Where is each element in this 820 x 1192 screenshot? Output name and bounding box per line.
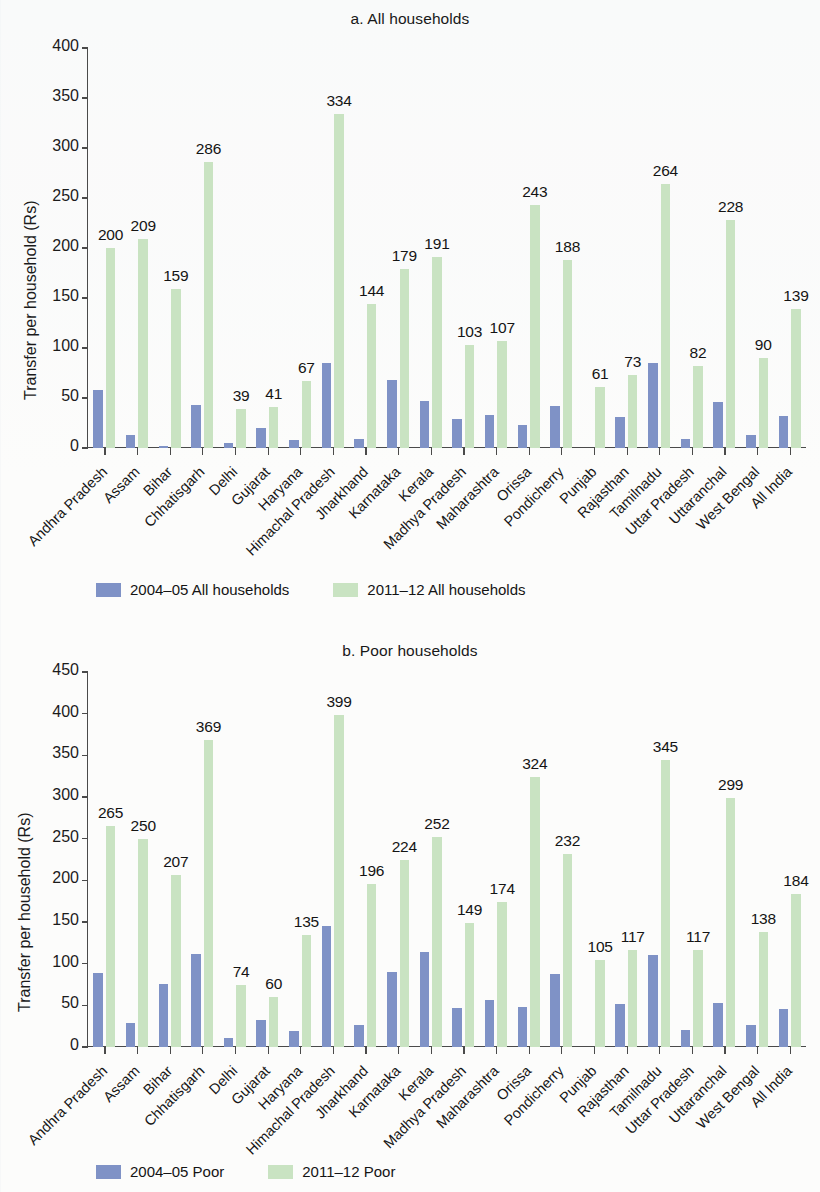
bar-2011-12 [595, 960, 605, 1048]
bar-2004-05 [615, 1004, 625, 1047]
x-tick-mark [724, 1047, 725, 1054]
y-tick-label: 0 [70, 437, 79, 455]
bar-group: 345 [643, 672, 676, 1047]
bar-value-label: 299 [718, 776, 743, 794]
bar-2004-05 [191, 405, 201, 448]
bar-value-label: 138 [751, 910, 776, 928]
bar-2011-12 [204, 162, 214, 448]
chart-b-legend-label-2011-12: 2011–12 Poor [302, 1163, 395, 1180]
y-tick-label: 100 [52, 337, 79, 355]
x-tick-mark [202, 1047, 203, 1054]
chart-b-y-axis-label: Transfer per household (Rs) [16, 813, 34, 1013]
x-tick-mark [104, 1047, 105, 1054]
x-tick-mark [235, 448, 236, 455]
bar-2011-12 [530, 205, 540, 448]
y-tick-label: 0 [70, 1036, 79, 1054]
bar-2004-05 [550, 974, 560, 1047]
bar-value-label: 232 [555, 832, 580, 850]
x-tick-mark [757, 448, 758, 455]
bar-2004-05 [126, 435, 136, 448]
bar-2004-05 [224, 1038, 234, 1047]
bar-2004-05 [420, 952, 430, 1047]
figure-page: a. All households Transfer per household… [0, 0, 820, 1192]
bar-2004-05 [746, 1025, 756, 1048]
legend-swatch-blue-icon [96, 583, 121, 597]
bar-2011-12 [497, 902, 507, 1047]
bar-value-label: 324 [522, 755, 547, 773]
bar-2004-05 [485, 1000, 495, 1048]
x-tick-mark [561, 1047, 562, 1054]
x-tick-mark [561, 448, 562, 455]
x-tick-mark [594, 1047, 595, 1054]
bar-2011-12 [171, 875, 181, 1048]
x-tick-mark [463, 448, 464, 455]
bar-value-label: 369 [196, 718, 221, 736]
bar-group: 209 [121, 48, 154, 448]
bar-value-label: 191 [424, 235, 449, 253]
y-tick-label: 150 [52, 911, 79, 929]
bar-value-label: 159 [163, 267, 188, 285]
bar-group: 82 [675, 48, 708, 448]
bar-value-label: 107 [490, 319, 515, 337]
x-tick-mark [170, 448, 171, 455]
bar-2004-05 [256, 428, 266, 448]
bar-group: 41 [251, 48, 284, 448]
bar-value-label: 265 [98, 804, 123, 822]
bar-2011-12 [138, 239, 148, 448]
legend-swatch-green-icon [333, 583, 358, 597]
bar-group: 200 [88, 48, 121, 448]
legend-swatch-green-icon [268, 1165, 293, 1179]
bar-2004-05 [681, 439, 691, 448]
x-tick-mark [692, 1047, 693, 1054]
chart-b-legend-label-2004-05: 2004–05 Poor [130, 1163, 224, 1180]
bar-2011-12 [269, 407, 279, 448]
bar-2011-12 [204, 740, 214, 1048]
bar-value-label: 200 [98, 226, 123, 244]
bar-group: 228 [708, 48, 741, 448]
bar-group: 179 [382, 48, 415, 448]
chart-a-legend-label-2004-05: 2004–05 All households [130, 581, 289, 598]
x-tick-mark [431, 448, 432, 455]
x-tick-mark [333, 448, 334, 455]
bar-group: 144 [349, 48, 382, 448]
bar-2011-12 [563, 260, 573, 448]
bar-2004-05 [93, 390, 103, 448]
bar-value-label: 149 [457, 901, 482, 919]
bar-group: 61 [578, 48, 611, 448]
bar-2011-12 [106, 826, 116, 1047]
bar-2004-05 [681, 1030, 691, 1048]
bar-2011-12 [791, 894, 801, 1047]
chart-a-y-axis-label: Transfer per household (Rs) [22, 201, 40, 401]
x-tick-mark [496, 1047, 497, 1054]
bar-2011-12 [628, 950, 638, 1048]
bar-2011-12 [465, 923, 475, 1047]
y-tick-label: 150 [52, 287, 79, 305]
bar-2011-12 [367, 884, 377, 1047]
bar-2004-05 [159, 984, 169, 1047]
bar-value-label: 105 [587, 938, 612, 956]
x-tick-mark [496, 448, 497, 455]
bar-group: 232 [545, 672, 578, 1047]
x-tick-mark [529, 448, 530, 455]
bar-2004-05 [191, 954, 201, 1047]
bar-value-label: 67 [298, 359, 315, 377]
bar-group: 107 [480, 48, 513, 448]
y-tick-label: 50 [61, 994, 79, 1012]
bar-2011-12 [432, 257, 442, 448]
bar-group: 191 [414, 48, 447, 448]
bar-group: 286 [186, 48, 219, 448]
bar-2004-05 [387, 380, 397, 448]
bar-group: 135 [284, 672, 317, 1047]
x-tick-mark [659, 448, 660, 455]
bar-group: 138 [741, 672, 774, 1047]
bar-2004-05 [224, 443, 234, 448]
bar-2004-05 [289, 1031, 299, 1047]
bar-value-label: 224 [392, 838, 417, 856]
bar-2011-12 [726, 220, 736, 448]
bar-value-label: 74 [233, 963, 250, 981]
bar-value-label: 250 [131, 817, 156, 835]
bar-2011-12 [563, 854, 573, 1047]
x-tick-mark [398, 1047, 399, 1054]
bar-2004-05 [615, 417, 625, 448]
bar-2004-05 [256, 1020, 266, 1047]
